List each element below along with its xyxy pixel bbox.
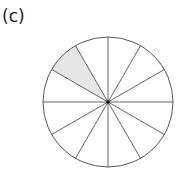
shaded-sector [52,46,108,102]
divider-line [108,102,141,158]
divider-line [52,102,108,135]
divider-line [108,102,164,135]
divider-line [76,102,109,158]
center-dot [106,100,110,104]
divider-line [108,46,141,102]
divided-circle-diagram [0,0,191,181]
divider-line [108,70,164,103]
